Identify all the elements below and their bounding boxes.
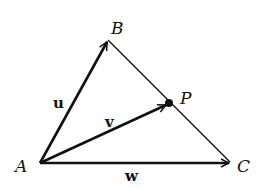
point-label-c: C	[237, 156, 250, 176]
point-label-a: A	[13, 156, 27, 176]
vector-u-arrow	[40, 42, 107, 163]
triangle-vector-diagram: A B C P u v w	[0, 0, 262, 188]
point-label-b: B	[110, 18, 124, 38]
point-label-p: P	[179, 88, 192, 108]
vector-label-w: w	[124, 167, 139, 185]
vector-label-v: v	[104, 113, 115, 131]
vector-v-arrow	[40, 105, 166, 163]
vector-label-u: u	[53, 94, 64, 112]
point-p-dot	[165, 99, 173, 107]
